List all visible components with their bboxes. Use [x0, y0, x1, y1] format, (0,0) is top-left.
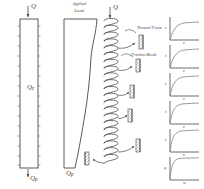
chart-1-xlabel: z — [183, 41, 185, 46]
friction-block-5-connector — [118, 146, 134, 152]
pile-soil-interaction-figure: Q Qz Qp Applied Load Qp Q Normal Force F… — [0, 0, 204, 189]
friction-block-5-plate — [136, 139, 140, 152]
pile-body — [20, 19, 38, 168]
chart-tz-curve-3 — [170, 73, 199, 96]
applied-load-title-line2: Load — [62, 9, 96, 14]
spring-friction-model — [85, 7, 143, 165]
chart-2-ylabel: t — [165, 54, 166, 59]
pile-base-load-subscript: p — [35, 177, 37, 182]
chart-6-ylabel: q — [164, 166, 166, 171]
chart-4-ylabel: t — [165, 110, 166, 115]
chart-5-xlabel: z — [183, 153, 185, 158]
friction-block-4-plate — [128, 109, 132, 122]
load-curve-base-subscript: p — [71, 172, 73, 177]
normal-force-label: Normal Force — [137, 26, 162, 31]
normal-force-leader — [125, 30, 136, 33]
chart-2-xlabel: z — [183, 69, 185, 74]
friction-block-6 — [85, 152, 104, 165]
pile-top-load-label: Q — [31, 3, 36, 10]
pile-shaft-load-subscript: z — [32, 86, 34, 91]
friction-block-6-connector — [93, 159, 104, 163]
chart-4-xlabel: z — [183, 125, 185, 130]
applied-load-title-line1: Applied — [62, 2, 96, 7]
chart-3-xlabel: z — [183, 97, 185, 102]
chart-5-ylabel: t — [165, 138, 166, 143]
spring-top-load-label: Q — [113, 4, 118, 11]
friction-block-3-plate — [130, 85, 134, 98]
figure-canvas — [0, 0, 204, 189]
friction-block-3-connector — [118, 92, 129, 95]
chart-3-ylabel: t — [165, 82, 166, 87]
chart-qw-curve — [170, 157, 199, 180]
friction-block-5 — [118, 139, 140, 152]
chart-tz-curve-1 — [170, 17, 199, 40]
chart-tz-curve-5 — [170, 129, 199, 152]
friction-block-3 — [118, 85, 134, 98]
friction-block-2-plate — [136, 59, 140, 72]
chart-tz-curve-4 — [170, 101, 199, 124]
chart-tz-curve-2 — [170, 45, 199, 68]
chart-1-ylabel: t — [165, 26, 166, 31]
load-curve-base-label: Qp — [66, 170, 73, 177]
friction-block-1-connector — [118, 43, 135, 48]
chart-6-xlabel: w — [183, 181, 186, 186]
friction-block-2 — [118, 59, 140, 72]
friction-block-4 — [118, 109, 132, 122]
friction-block-2-connector — [118, 66, 132, 70]
friction-block-4-connector — [118, 115, 127, 118]
friction-block-label: Friction Block — [131, 53, 156, 58]
friction-block-1-plate — [139, 35, 143, 49]
friction-block-6-plate — [85, 152, 89, 165]
load-distribution-diagram — [64, 19, 97, 168]
load-transfer-curve — [75, 19, 97, 168]
coil-spring — [104, 18, 118, 163]
friction-block-1 — [118, 35, 143, 49]
pile-base-load-label: Qp — [30, 175, 37, 182]
pile-diagram — [18, 6, 41, 177]
pile-shaft-load-label: Qz — [27, 84, 34, 91]
